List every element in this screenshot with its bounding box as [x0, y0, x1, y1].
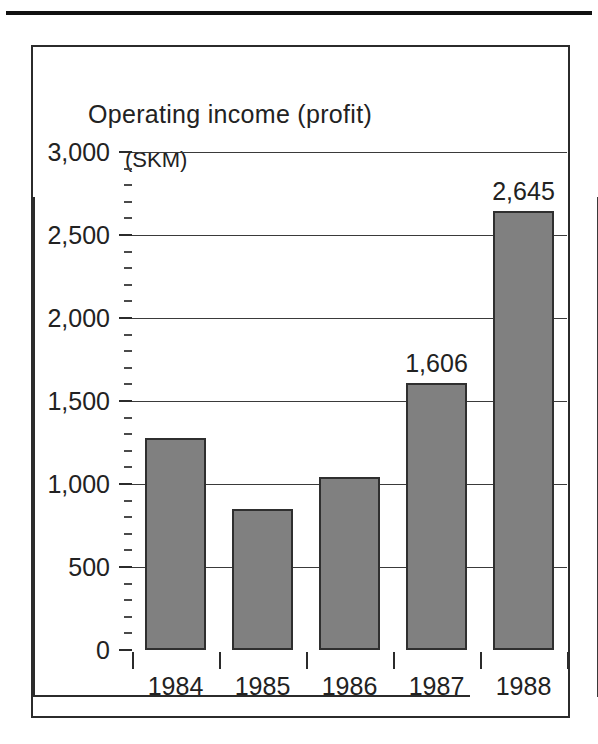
y-axis-tick-minor — [124, 251, 132, 253]
y-axis-tick-minor — [124, 466, 132, 468]
bars-group — [132, 152, 567, 650]
y-axis-line — [33, 197, 35, 697]
y-axis-tick-minor — [124, 583, 132, 585]
y-axis-tick-minor — [124, 632, 132, 634]
x-axis-tick — [393, 652, 395, 669]
y-axis-tick-minor — [124, 599, 132, 601]
x-axis-tick — [480, 652, 482, 669]
y-axis-tick-major — [119, 317, 132, 319]
y-axis-tick-minor — [124, 168, 132, 170]
bar-1988[interactable] — [493, 211, 554, 650]
y-axis-tick-minor — [124, 367, 132, 369]
y-axis-tick-major — [119, 649, 132, 651]
y-axis-tick-minor — [124, 201, 132, 203]
y-axis-tick-major — [119, 400, 132, 402]
y-axis-tick-minor — [124, 350, 132, 352]
y-axis-tick-minor — [124, 334, 132, 336]
y-axis-tick-label: 1,500 — [47, 387, 110, 416]
page-top-rule — [6, 11, 592, 15]
x-axis-label-1988: 1988 — [480, 672, 567, 701]
y-axis-tick-minor — [124, 549, 132, 551]
y-axis-tick-minor — [124, 383, 132, 385]
y-axis-tick-minor — [124, 284, 132, 286]
x-axis-tick — [219, 652, 221, 669]
y-axis-tick-label: 0 — [96, 636, 110, 665]
y-axis-tick-major — [119, 566, 132, 568]
x-axis-label-1987: 1987 — [393, 672, 480, 701]
y-axis-tick-minor — [124, 450, 132, 452]
y-axis-tick-label: 2,000 — [47, 304, 110, 333]
y-axis-tick-minor — [124, 417, 132, 419]
bar-value-label-1988: 2,645 — [480, 177, 567, 206]
bar-1986[interactable] — [319, 477, 380, 650]
y-axis-tick-minor — [124, 616, 132, 618]
y-axis-tick-minor — [124, 184, 132, 186]
y-axis-tick-label: 500 — [68, 553, 110, 582]
x-axis-tick — [132, 652, 134, 669]
y-axis-tick-label: 2,500 — [47, 221, 110, 250]
chart-title: Operating income (profit) — [88, 100, 372, 129]
x-axis-label-1985: 1985 — [219, 672, 306, 701]
y-axis-tick-minor — [124, 267, 132, 269]
x-axis-tick — [567, 652, 569, 669]
y-axis-tick-major — [119, 151, 132, 153]
x-axis-label-1986: 1986 — [306, 672, 393, 701]
y-axis-tick-minor — [124, 516, 132, 518]
bar-1987[interactable] — [406, 383, 467, 650]
bar-1984[interactable] — [145, 438, 206, 650]
x-axis-tick — [306, 652, 308, 669]
bar-1985[interactable] — [232, 509, 293, 650]
y-axis-tick-label: 1,000 — [47, 470, 110, 499]
bar-value-label-1987: 1,606 — [393, 349, 480, 378]
x-axis-label-1984: 1984 — [132, 672, 219, 701]
y-axis-tick-major — [119, 483, 132, 485]
y-axis-tick-label: 3,000 — [47, 138, 110, 167]
chart-figure-box: Operating income (profit) (SKM) 05001,00… — [31, 45, 570, 718]
y-axis-tick-major — [119, 234, 132, 236]
y-axis-tick-minor — [124, 500, 132, 502]
y-axis-tick-minor — [124, 533, 132, 535]
y-axis-tick-minor — [124, 300, 132, 302]
y-axis-tick-minor — [124, 217, 132, 219]
y-axis-tick-minor — [124, 433, 132, 435]
